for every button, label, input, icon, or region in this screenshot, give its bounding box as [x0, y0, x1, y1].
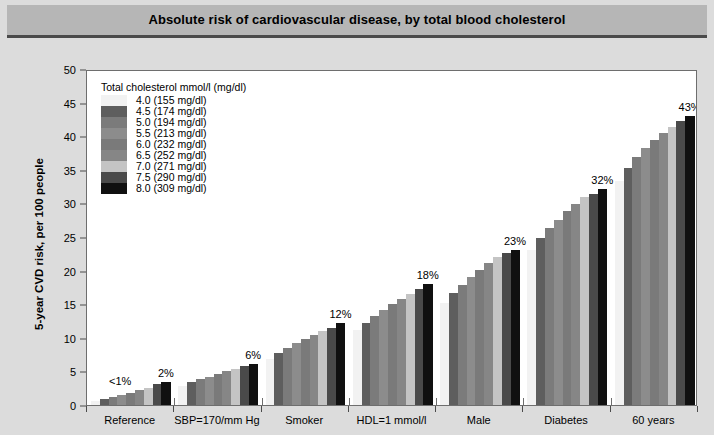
x-category-label: Smoker	[285, 414, 323, 426]
x-category-label: Male	[467, 414, 491, 426]
x-category-label: Diabetes	[544, 414, 587, 426]
x-tick-mark	[610, 406, 611, 412]
y-axis: 5-year CVD risk, per 100 people 05101520…	[0, 0, 86, 435]
y-tick-label: 40	[36, 131, 76, 143]
legend-swatch	[101, 128, 127, 139]
bar-value-label: 43%	[679, 101, 696, 113]
group-separator	[349, 398, 350, 405]
group-separator	[174, 398, 175, 405]
group-separator	[262, 398, 263, 405]
bar-group	[523, 71, 610, 405]
legend-swatch	[101, 95, 127, 106]
legend: Total cholesterol mmol/l (mg/dl) 4.0 (15…	[101, 81, 246, 194]
y-tick-label: 15	[36, 299, 76, 311]
legend-item: 8.0 (309 mg/dl)	[101, 183, 246, 194]
legend-items: 4.0 (155 mg/dl)4.5 (174 mg/dl)5.0 (194 m…	[101, 95, 246, 194]
legend-swatch	[101, 183, 127, 194]
bar	[336, 323, 345, 405]
legend-swatch	[101, 150, 127, 161]
y-tick-label: 5	[36, 366, 76, 378]
bar	[249, 364, 258, 405]
chart-title-bar: Absolute risk of cardiovascular disease,…	[7, 5, 707, 38]
bar	[685, 116, 694, 405]
y-tick-label: 45	[36, 98, 76, 110]
x-axis: ReferenceSBP=170/mm HgSmokerHDL=1 mmol/l…	[86, 406, 697, 435]
x-tick-mark	[522, 406, 523, 412]
x-tick-mark	[173, 406, 174, 412]
bar	[423, 284, 432, 405]
y-tick-label: 50	[36, 64, 76, 76]
bar-group	[611, 71, 696, 405]
group-separator	[611, 398, 612, 405]
x-category-label: 60 years	[632, 414, 674, 426]
y-tick-label: 30	[36, 198, 76, 210]
legend-swatch	[101, 106, 127, 117]
bar	[161, 382, 170, 405]
bar-group	[349, 71, 436, 405]
y-tick-label: 35	[36, 165, 76, 177]
bar	[511, 250, 520, 405]
legend-item-label: 8.0 (309 mg/dl)	[136, 183, 207, 194]
bar	[598, 189, 607, 405]
x-tick-mark	[697, 406, 698, 412]
plot-area: 2%6%12%18%23%32%43%<1% Total cholesterol…	[86, 70, 697, 406]
chart-title: Absolute risk of cardiovascular disease,…	[7, 5, 707, 35]
bar-value-label-reference: <1%	[109, 375, 131, 387]
x-tick-mark	[435, 406, 436, 412]
bar-value-label: 2%	[158, 367, 174, 379]
x-category-label: HDL=1 mmol/l	[357, 414, 427, 426]
x-tick-mark	[86, 406, 87, 412]
figure-container: Absolute risk of cardiovascular disease,…	[0, 0, 714, 435]
x-category-label: SBP=170/mm Hg	[174, 414, 259, 426]
y-tick-label: 25	[36, 232, 76, 244]
bar-group	[262, 71, 349, 405]
x-tick-mark	[348, 406, 349, 412]
y-tick-label: 20	[36, 266, 76, 278]
y-tick-label: 0	[36, 400, 76, 412]
x-category-label: Reference	[104, 414, 155, 426]
legend-title: Total cholesterol mmol/l (mg/dl)	[101, 81, 246, 93]
legend-swatch	[101, 161, 127, 172]
group-separator	[523, 398, 524, 405]
x-tick-mark	[261, 406, 262, 412]
legend-swatch	[101, 139, 127, 150]
legend-swatch	[101, 172, 127, 183]
y-tick-label: 10	[36, 333, 76, 345]
bar-value-label: 6%	[245, 349, 261, 361]
group-separator	[436, 398, 437, 405]
legend-swatch	[101, 117, 127, 128]
